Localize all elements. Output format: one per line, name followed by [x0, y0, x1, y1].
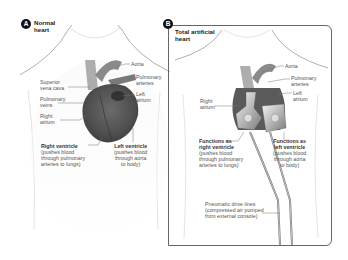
label-pulmonary-arteries-b: Pulmonaryarteries	[291, 75, 316, 87]
label-functions-left-ventricle: Functions as left ventricle (pushes bloo…	[273, 138, 306, 168]
panel-a-badge: A	[21, 19, 31, 29]
label-pneumatic-drive-lines: Pneumatic drive lines (compressed air pu…	[205, 201, 264, 219]
label-superior-vena-cava: Superiorvena cava	[40, 79, 64, 91]
label-aorta-b: Aorta	[285, 63, 298, 69]
label-left-atrium-a: Leftatrium	[136, 91, 151, 103]
label-aorta-a: Aorta	[131, 61, 144, 67]
label-pulmonary-veins: Pulmonaryveins	[40, 96, 65, 108]
label-functions-right-ventricle: Functions as right ventricle (pushes blo…	[199, 138, 243, 168]
panel-a-title: Normal heart	[34, 19, 55, 33]
panel-b-badge: B	[163, 19, 173, 29]
panel-b-title: Total artificial heart	[175, 28, 215, 42]
label-right-ventricle: Right ventricle (pushes blood through pu…	[41, 143, 85, 167]
label-left-atrium-b: Leftatrium	[293, 90, 308, 102]
label-right-atrium-b: Rightatrium	[200, 98, 215, 110]
label-right-atrium-a: Rightatrium	[40, 113, 55, 125]
label-pulmonary-arteries-a: Pulmonaryarteries	[136, 74, 161, 86]
label-left-ventricle: Left ventricle (pushes blood through aor…	[114, 143, 147, 167]
